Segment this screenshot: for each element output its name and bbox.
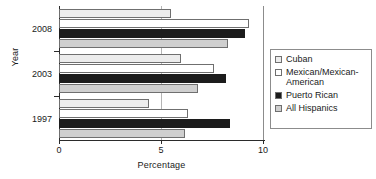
legend-label-mexican: Mexican/Mexican- American [286,67,359,87]
y-tick-label-2003: 2003 [4,69,52,79]
y-tick-lower [54,96,59,97]
bar-1997-mexican [59,109,188,118]
legend-swatch-all-hispanics [275,105,282,112]
legend-label-all-hispanics: All Hispanics [286,103,338,113]
legend-item-all-hispanics: All Hispanics [275,103,368,113]
bar-2003-cuban [59,54,181,63]
bar-1997-all-hispanics [59,129,185,138]
x-tick-label-5: 5 [146,145,176,155]
bar-2008-cuban [59,9,171,18]
bar-2003-puerto-rican [59,74,226,83]
legend-label-puerto-rican: Puerto Rican [286,90,338,100]
bar-chart: Year Percentage 0 5 10 2008 2003 1997 Cu… [0,0,376,179]
bar-2003-all-hispanics [59,84,198,93]
bar-2003-mexican [59,64,214,73]
legend-swatch-cuban [275,56,282,63]
x-tick-10 [263,140,264,144]
x-axis-title: Percentage [59,160,264,170]
bar-2008-puerto-rican [59,29,245,38]
legend-item-mexican: Mexican/Mexican- American [275,67,368,87]
y-tick-label-1997: 1997 [4,114,52,124]
bar-1997-cuban [59,99,149,108]
x-tick-label-0: 0 [44,145,74,155]
y-tick-upper [54,51,59,52]
bar-2008-mexican [59,19,249,28]
legend-swatch-puerto-rican [275,92,282,99]
y-tick-label-2008: 2008 [4,24,52,34]
x-tick-label-10: 10 [248,145,278,155]
x-tick-5 [161,140,162,144]
x-tick-0 [59,140,60,144]
legend-item-puerto-rican: Puerto Rican [275,90,368,100]
bar-2008-all-hispanics [59,39,228,48]
x-axis-line [59,140,265,141]
bar-1997-puerto-rican [59,119,230,128]
legend: Cuban Mexican/Mexican- American Puerto R… [270,49,372,129]
legend-swatch-mexican [275,69,282,76]
legend-item-cuban: Cuban [275,54,368,64]
legend-label-cuban: Cuban [286,54,313,64]
